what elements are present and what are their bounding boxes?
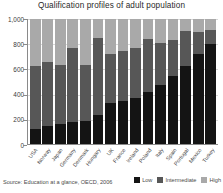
bar-segment-low (118, 101, 129, 144)
legend-item-high[interactable]: High (201, 177, 221, 183)
bar-segment-high (168, 19, 179, 40)
bar-segment-low (155, 85, 166, 144)
bar-stack (193, 19, 204, 144)
bar-segment-intermediate (130, 48, 141, 97)
bar-stack (118, 19, 129, 144)
bar-stack (130, 19, 141, 144)
x-label-cell: Italy (154, 146, 167, 176)
y-tick-label: 1,000 (0, 16, 24, 23)
bar-segment-high (80, 19, 91, 65)
bar-segment-intermediate (180, 31, 191, 65)
bar-segment-intermediate (105, 54, 116, 103)
bar-segment-low (180, 66, 191, 144)
bar-segment-high (42, 19, 53, 62)
bar-segment-high (93, 19, 104, 38)
bar-segment-intermediate (168, 40, 179, 76)
bar-segment-intermediate (80, 65, 91, 121)
chart-title: Qualification profiles of adult populati… (0, 1, 223, 10)
bars-layer (28, 19, 218, 144)
bar-segment-intermediate (155, 43, 166, 86)
y-tick-label: 0 (0, 142, 24, 149)
x-tick-label: Italy (154, 147, 165, 158)
source-note: Source: Education at a glance, OECD, 200… (3, 179, 112, 185)
bar-segment-high (105, 19, 116, 54)
legend-label: Intermediate (165, 177, 196, 183)
bar-stack (93, 19, 104, 144)
bar-segment-high (180, 19, 191, 32)
bar-stack (155, 19, 166, 144)
bar-segment-intermediate (205, 30, 216, 44)
bar-stack (205, 19, 216, 144)
bar-segment-high (143, 19, 154, 39)
bar-stack (143, 19, 154, 144)
bar-stack (180, 19, 191, 144)
legend-swatch-high (201, 177, 207, 183)
bar-segment-low (67, 122, 78, 144)
bar-segment-low (80, 121, 91, 144)
legend-swatch-low (134, 177, 140, 183)
legend-label: High (209, 177, 221, 183)
bar-segment-low (55, 124, 66, 144)
bar-segment-high (67, 19, 78, 48)
bar-segment-intermediate (30, 66, 41, 129)
bar-stack (168, 19, 179, 144)
bar-segment-intermediate (118, 51, 129, 101)
bar-segment-high (30, 19, 41, 66)
bar-segment-low (143, 92, 154, 145)
x-tick-label: UK (105, 147, 114, 157)
y-tick-label: 200 (0, 116, 24, 123)
bar-segment-high (205, 19, 216, 30)
legend: LowIntermediateHigh (134, 177, 221, 183)
bar-segment-high (130, 19, 141, 48)
bar-segment-low (205, 44, 216, 144)
x-label-cell: Poland (141, 146, 154, 176)
bar-stack (55, 19, 66, 144)
y-tick-label: 400 (0, 91, 24, 98)
bar-segment-intermediate (93, 38, 104, 115)
bar-stack (30, 19, 41, 144)
x-label-cell: Hungary (91, 146, 104, 176)
legend-item-intermediate[interactable]: Intermediate (157, 177, 196, 183)
bar-stack (42, 19, 53, 144)
bar-stack (80, 19, 91, 144)
bar-segment-low (168, 76, 179, 144)
x-axis-labels: USANorwayJapanGermanyDenmarkHungaryUKFra… (27, 146, 218, 176)
bar-segment-low (130, 98, 141, 144)
bar-segment-low (105, 103, 116, 144)
legend-swatch-intermediate (157, 177, 163, 183)
x-label-cell: Turkey (204, 146, 217, 176)
bar-segment-intermediate (193, 32, 204, 54)
bar-segment-high (193, 19, 204, 32)
bar-segment-low (93, 115, 104, 144)
bar-segment-low (193, 54, 204, 144)
bar-segment-high (155, 19, 166, 43)
bar-segment-high (118, 19, 129, 51)
bar-segment-intermediate (42, 62, 53, 126)
legend-item-low[interactable]: Low (134, 177, 152, 183)
bar-stack (67, 19, 78, 144)
bar-segment-high (55, 19, 66, 65)
x-label-cell: Norway (41, 146, 54, 176)
y-tick-label: 800 (0, 41, 24, 48)
bar-segment-intermediate (143, 39, 154, 92)
plot-area (27, 19, 218, 145)
bar-segment-intermediate (55, 65, 66, 124)
bar-stack (105, 19, 116, 144)
qualification-profiles-chart: Qualification profiles of adult populati… (0, 0, 223, 193)
bar-segment-intermediate (67, 48, 78, 122)
bar-segment-low (42, 126, 53, 144)
y-tick-label: 600 (0, 66, 24, 73)
legend-label: Low (142, 177, 152, 183)
bar-segment-low (30, 129, 41, 144)
